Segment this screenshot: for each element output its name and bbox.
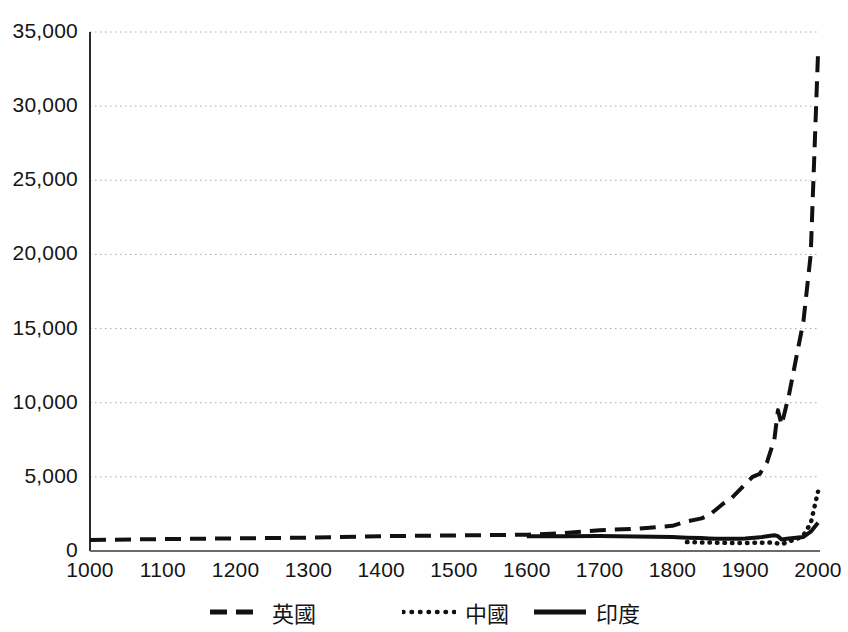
axis-lines [90,32,820,551]
y-tick-label: 5,000 [0,464,78,488]
y-tick-label: 30,000 [0,93,78,117]
chart-plot-area [0,0,848,632]
x-tick-label: 1700 [560,558,640,582]
y-tick-label: 35,000 [0,19,78,43]
chart-legend: 英國 中國 印度 [0,592,848,632]
y-tick-label: 10,000 [0,390,78,414]
legend-swatch-solid-icon [533,606,587,618]
x-tick-label: 1300 [268,558,348,582]
x-tick-label: 1600 [487,558,567,582]
gdp-per-capita-line-chart: 05,00010,00015,00020,00025,00030,00035,0… [0,0,848,632]
y-tick-label: 15,000 [0,316,78,340]
legend-item-uk[interactable]: 英國 [209,596,316,628]
legend-item-india[interactable]: 印度 [533,596,640,628]
legend-item-china[interactable]: 中國 [402,596,509,628]
x-tick-label: 1400 [341,558,421,582]
y-tick-label: 25,000 [0,167,78,191]
series-line-英國 [90,54,818,540]
x-tick-label: 1200 [196,558,276,582]
legend-swatch-dotted-icon [402,606,456,618]
x-tick-label: 1800 [632,558,712,582]
y-tick-label: 20,000 [0,241,78,265]
legend-label-india: 印度 [596,596,640,628]
x-tick-label: 1000 [50,558,130,582]
legend-label-china: 中國 [465,596,509,628]
x-tick-label: 1900 [705,558,785,582]
data-series-layer [90,54,818,544]
legend-swatch-dashed-icon [209,606,263,618]
gridlines [90,32,818,477]
x-tick-label: 1100 [123,558,203,582]
legend-label-uk: 英國 [272,596,316,628]
x-tick-label: 1500 [414,558,494,582]
x-tick-label: 2000 [778,558,848,582]
